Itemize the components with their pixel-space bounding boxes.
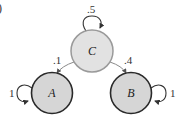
edge-label-c-to-a: .1	[53, 54, 61, 66]
edge-label-c-self: .5	[87, 3, 96, 15]
self-loop-b: 1	[151, 85, 176, 102]
node-c: C	[71, 30, 113, 72]
node-label-a: A	[47, 86, 56, 100]
node-b: B	[111, 73, 152, 114]
edge-c-to-b: .4	[110, 54, 133, 73]
edge-c-to-a: .1	[53, 54, 74, 73]
edge-label-c-to-b: .4	[124, 54, 133, 66]
self-loop-c: .5	[83, 3, 101, 31]
panel-label: )	[0, 1, 2, 15]
edge-label-a-self: 1	[9, 87, 15, 99]
node-label-b: B	[127, 86, 135, 100]
node-a: A	[32, 73, 73, 114]
self-loop-a: 1	[9, 85, 32, 102]
edge-label-b-self: 1	[170, 87, 176, 99]
markov-chain-diagram: ) .1 .4 .5 1 1 C A B	[0, 0, 181, 120]
node-label-c: C	[88, 44, 97, 58]
